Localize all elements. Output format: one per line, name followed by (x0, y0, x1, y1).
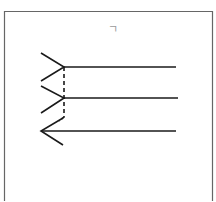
middle-line-group (41, 86, 178, 113)
bottom-line-group (41, 118, 176, 145)
illusion-figure: ㄱ (0, 0, 216, 201)
dashed-connector (59, 67, 64, 121)
top-line-group (41, 53, 176, 81)
middle-fins-icon (41, 86, 64, 113)
annotation-mark: ㄱ (108, 24, 118, 35)
top-fins-icon (41, 53, 64, 81)
frame-border (5, 12, 213, 202)
